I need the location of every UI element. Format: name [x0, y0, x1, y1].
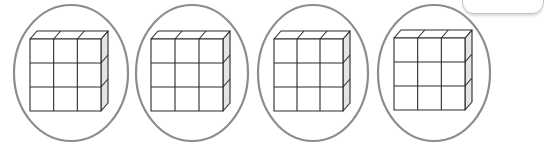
block-top-face	[30, 31, 108, 39]
block-side-face	[465, 30, 472, 110]
block-side-face	[101, 31, 108, 111]
cube-group-2	[136, 5, 248, 141]
cube-block-3x3	[30, 31, 108, 111]
cube-block-3x3	[151, 31, 230, 111]
block-top-face	[394, 30, 472, 38]
block-top-face	[274, 31, 350, 39]
block-top-face	[151, 31, 230, 39]
block-front-face	[30, 39, 101, 111]
cube-group-3	[258, 5, 368, 141]
cube-block-3x3	[394, 30, 472, 110]
block-front-face	[274, 39, 343, 111]
cube-group-4	[378, 5, 490, 141]
cube-block-3x3	[274, 31, 350, 111]
block-side-face	[343, 31, 350, 111]
block-front-face	[394, 38, 465, 110]
cube-group-1	[14, 5, 128, 141]
block-front-face	[151, 39, 223, 111]
block-side-face	[223, 31, 230, 111]
